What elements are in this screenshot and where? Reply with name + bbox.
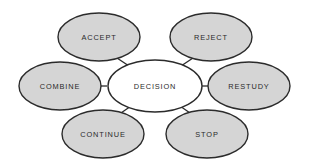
decision-label: DECISION (134, 82, 177, 91)
node-stop[interactable]: STOP (166, 110, 248, 158)
combine-label: COMBINE (40, 82, 80, 91)
node-reject[interactable]: REJECT (170, 13, 252, 61)
stop-label: STOP (195, 130, 218, 139)
node-accept[interactable]: ACCEPT (58, 13, 140, 61)
node-restudy[interactable]: RESTUDY (208, 62, 290, 110)
accept-label: ACCEPT (81, 33, 116, 42)
restudy-label: RESTUDY (228, 82, 269, 91)
diagram-canvas: ACCEPT REJECT COMBINE RESTUDY CONTINUE S… (0, 0, 309, 164)
decision-diagram: ACCEPT REJECT COMBINE RESTUDY CONTINUE S… (0, 0, 309, 164)
continue-label: CONTINUE (80, 130, 125, 139)
node-continue[interactable]: CONTINUE (62, 110, 144, 158)
reject-label: REJECT (194, 33, 228, 42)
node-combine[interactable]: COMBINE (19, 62, 101, 110)
node-decision[interactable]: DECISION (108, 60, 202, 112)
